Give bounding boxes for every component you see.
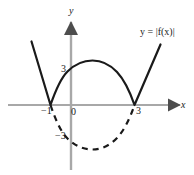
graph-figure: y x 0 −1 3 3 −3 y = |f(x)|: [0, 0, 194, 175]
curve-equation-label: y = |f(x)|: [140, 27, 175, 37]
x-axis-label: x: [181, 100, 185, 110]
x-tick-label-3: 3: [136, 106, 141, 116]
absolute-value-curve: [32, 42, 161, 106]
y-tick-label-neg3: −3: [55, 131, 66, 141]
x-tick-label-neg1: −1: [41, 106, 52, 116]
original-function-curve: [51, 105, 135, 150]
y-axis-label: y: [69, 6, 73, 16]
origin-tick-label: 0: [71, 107, 76, 117]
y-tick-label-3: 3: [61, 64, 66, 74]
